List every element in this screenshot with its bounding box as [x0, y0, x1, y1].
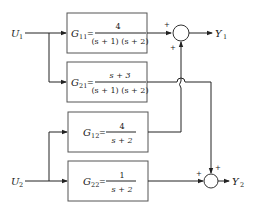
g21-output-line	[147, 78, 211, 173]
svg-text:G: G	[83, 127, 91, 138]
svg-text:s + 2: s + 2	[112, 136, 133, 145]
block-g22: G 22 = 1 s + 2	[68, 161, 148, 201]
svg-text:+: +	[196, 170, 202, 178]
block-g12: G 12 = 4 s + 2	[68, 112, 148, 152]
svg-text:+: +	[170, 44, 176, 52]
svg-text:+: +	[164, 21, 170, 29]
svg-text:2: 2	[240, 181, 244, 189]
summing-junction-2: + +	[196, 164, 221, 188]
svg-text:Y: Y	[232, 176, 240, 187]
svg-text:Y: Y	[215, 28, 223, 39]
u1-branch-line	[49, 33, 66, 82]
svg-text:(s + 1) (s + 2): (s + 1) (s + 2)	[92, 86, 149, 95]
input-u2-label: U 2	[11, 176, 23, 189]
output-y1-label: Y 1	[215, 28, 227, 41]
svg-text:=: =	[99, 177, 106, 186]
input-u1-label: U 1	[11, 28, 23, 41]
svg-text:4: 4	[119, 122, 124, 131]
svg-text:1: 1	[19, 33, 23, 41]
svg-text:=: =	[99, 128, 106, 137]
svg-text:+: +	[215, 164, 221, 172]
svg-text:G: G	[71, 77, 79, 88]
svg-text:4: 4	[115, 22, 120, 31]
block-g21: G 21 = s + 3 (s + 1) (s + 2)	[67, 62, 149, 102]
mimo-block-diagram: U 1 U 2 G 11 = 4 (s + 1) (s + 2) G 21 = …	[0, 0, 257, 213]
summing-junction-1: + +	[164, 21, 189, 52]
output-y2-label: Y 2	[232, 176, 244, 189]
svg-text:G: G	[71, 28, 79, 39]
svg-text:s + 2: s + 2	[112, 185, 133, 194]
svg-text:G: G	[83, 176, 91, 187]
block-g11: G 11 = 4 (s + 1) (s + 2)	[67, 13, 149, 53]
svg-text:1: 1	[119, 171, 124, 180]
u2-branch-line	[49, 132, 67, 181]
g12-output-line	[148, 88, 181, 132]
svg-text:(s + 1) (s + 2): (s + 1) (s + 2)	[92, 37, 149, 46]
svg-text:1: 1	[223, 33, 227, 41]
svg-text:s + 3: s + 3	[110, 71, 131, 80]
svg-text:2: 2	[19, 181, 23, 189]
